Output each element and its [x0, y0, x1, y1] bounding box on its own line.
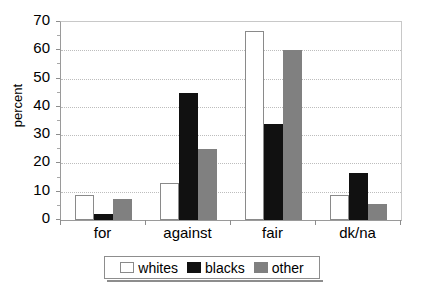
- bar-other-against: [198, 149, 217, 220]
- x-category-label-dk-na: dk/na: [315, 224, 400, 241]
- legend-entry-whites: whites: [120, 260, 178, 276]
- legend-swatch-whites: [120, 262, 134, 273]
- chart-legend: whites blacks other: [104, 256, 320, 279]
- legend-swatch-blacks: [187, 262, 201, 273]
- legend-entry-blacks: blacks: [187, 260, 245, 276]
- bar-other-fair: [283, 50, 302, 220]
- y-tick-label: 20: [6, 152, 50, 169]
- gridline: [61, 163, 401, 164]
- x-category-label-for: for: [60, 224, 145, 241]
- gridline: [61, 135, 401, 136]
- legend-swatch-other: [254, 262, 268, 273]
- y-tick-label: 60: [6, 39, 50, 56]
- bar-blacks-dk-na: [349, 173, 368, 220]
- gridline: [61, 107, 401, 108]
- plot-area: [60, 21, 402, 221]
- legend-entry-other: other: [254, 260, 304, 276]
- bar-other-for: [113, 199, 132, 220]
- x-category-label-against: against: [145, 224, 230, 241]
- gridline: [61, 79, 401, 80]
- bar-whites-for: [75, 195, 94, 220]
- y-tick-label: 70: [6, 11, 50, 28]
- bar-chart: percent 010203040506070 foragainstfairdk…: [0, 0, 422, 289]
- legend-label-whites: whites: [138, 260, 178, 276]
- legend-label-blacks: blacks: [205, 260, 245, 276]
- bar-blacks-for: [94, 214, 113, 220]
- y-tick-label: 10: [6, 181, 50, 198]
- x-category-label-fair: fair: [230, 224, 315, 241]
- bar-other-dk-na: [368, 204, 387, 220]
- legend-shadow: [107, 280, 323, 282]
- bar-blacks-against: [179, 93, 198, 220]
- legend-label-other: other: [272, 260, 304, 276]
- y-tick-label: 40: [6, 96, 50, 113]
- x-tick-mark: [400, 220, 401, 225]
- y-tick-label: 0: [6, 209, 50, 226]
- y-tick-label: 50: [6, 68, 50, 85]
- gridline: [61, 50, 401, 51]
- bar-blacks-fair: [264, 124, 283, 220]
- bar-whites-against: [160, 183, 179, 220]
- y-tick-label: 30: [6, 124, 50, 141]
- bar-whites-dk-na: [330, 195, 349, 220]
- bar-whites-fair: [245, 31, 264, 221]
